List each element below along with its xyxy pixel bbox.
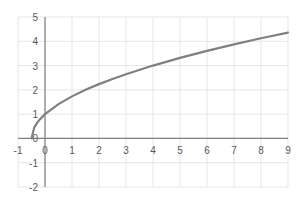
x-tick-label: 7: [231, 145, 237, 156]
x-tick-label: 8: [258, 145, 264, 156]
gridlines: [18, 17, 288, 187]
x-tick-label: 2: [96, 145, 102, 156]
x-tick-label: -1: [14, 145, 23, 156]
x-tick-label: 4: [150, 145, 156, 156]
y-tick-label: 1: [32, 109, 38, 120]
data-series-line: [32, 33, 289, 139]
x-tick-label: 1: [69, 145, 75, 156]
x-tick-label: 6: [204, 145, 210, 156]
x-tick-label: 3: [123, 145, 129, 156]
y-tick-label: 2: [32, 85, 38, 96]
x-tick-labels: -10123456789: [14, 145, 292, 156]
line-chart: -10123456789 -2-1012345: [0, 0, 307, 202]
y-tick-label: 4: [32, 36, 38, 47]
x-tick-label: 5: [177, 145, 183, 156]
y-tick-labels: -2-1012345: [29, 12, 38, 193]
y-tick-label: -1: [29, 158, 38, 169]
y-tick-label: 5: [32, 12, 38, 23]
x-tick-label: 9: [285, 145, 291, 156]
x-tick-label: 0: [42, 145, 48, 156]
y-tick-label: -2: [29, 182, 38, 193]
y-tick-label: 3: [32, 61, 38, 72]
